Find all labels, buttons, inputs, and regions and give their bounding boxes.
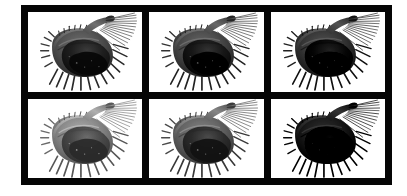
specimen-image-normal [149,12,263,92]
specimen-image-darkest [271,99,385,179]
figure-frame [21,5,392,185]
panel-image-area [149,12,263,92]
panel-image-area [28,12,142,92]
image-panel-top-right[interactable] [271,12,385,92]
panel-image-area [271,12,385,92]
image-panel-top-left[interactable] [28,12,142,92]
image-panel-bottom-center[interactable] [149,99,263,179]
image-panel-bottom-right[interactable] [271,99,385,179]
specimen-image-normal [28,12,142,92]
image-panel-bottom-left[interactable] [28,99,142,179]
panel-image-area [28,99,142,179]
image-panel-top-center[interactable] [149,12,263,92]
panel-image-area [149,99,263,179]
specimen-image-bright [28,99,142,179]
specimen-image-lit [149,99,263,179]
specimen-image-dark [271,12,385,92]
panel-image-area [271,99,385,179]
